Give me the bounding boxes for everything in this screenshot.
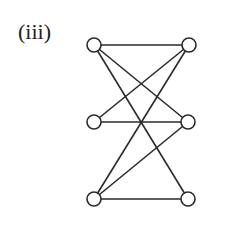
node-ML [87, 115, 101, 129]
node-BR [181, 192, 195, 206]
edges [94, 45, 189, 199]
bipartite-graph [0, 0, 238, 232]
node-TL [87, 38, 101, 52]
node-BL [87, 192, 101, 206]
edge-BL-MR [94, 122, 188, 199]
node-TR [182, 38, 196, 52]
node-MR [181, 115, 195, 129]
